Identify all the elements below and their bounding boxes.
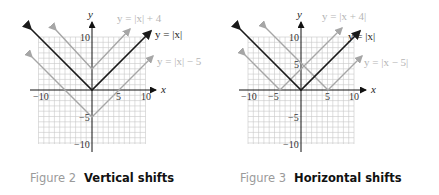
figure-caption: Figure 3Horizontal shifts bbox=[240, 171, 402, 185]
chart-horizontal-shifts: −10 −5 5 10 10 5 −5 −10 x y y = |x + 4| … bbox=[220, 0, 439, 160]
y-axis-label: y bbox=[296, 8, 302, 20]
x-tick-label: −10 bbox=[241, 91, 257, 102]
x-tick-label: −10 bbox=[33, 91, 49, 102]
y-tick-label: 10 bbox=[289, 32, 299, 43]
label-abs-x: y = |x| bbox=[155, 28, 182, 40]
label-abs-x-plus-4: y = |x + 4| bbox=[322, 10, 366, 22]
caption-title: Vertical shifts bbox=[84, 171, 174, 185]
y-tick-label: −5 bbox=[79, 112, 90, 123]
chart-vertical-shifts: −10 5 10 10 −5 −10 x y y = |x| + 4 y = |… bbox=[0, 0, 220, 160]
x-tick-label: 10 bbox=[141, 91, 151, 102]
figure-horizontal-shifts: −10 −5 5 10 10 5 −5 −10 x y y = |x + 4| … bbox=[220, 0, 439, 195]
y-tick-label: −5 bbox=[288, 112, 299, 123]
figure-caption: Figure 2Vertical shifts bbox=[30, 171, 174, 185]
caption-title: Horizontal shifts bbox=[294, 171, 401, 185]
y-tick-label: 10 bbox=[80, 32, 90, 43]
x-tick-label: −5 bbox=[268, 91, 279, 102]
x-axis-label: x bbox=[370, 83, 376, 95]
label-abs-x-minus-5: y = |x| − 5 bbox=[157, 55, 202, 67]
label-abs-x-plus-4: y = |x| + 4 bbox=[117, 12, 162, 24]
figure-vertical-shifts: −10 5 10 10 −5 −10 x y y = |x| + 4 y = |… bbox=[0, 0, 220, 195]
label-abs-x: y = |x| bbox=[348, 30, 375, 42]
y-tick-label: −10 bbox=[74, 139, 90, 150]
curve-abs-x bbox=[240, 29, 360, 90]
x-axis-label: x bbox=[160, 83, 166, 95]
y-tick-label: −10 bbox=[283, 139, 299, 150]
x-tick-label: 10 bbox=[349, 91, 359, 102]
y-tick-label: 5 bbox=[294, 59, 299, 70]
x-tick-label: 5 bbox=[325, 91, 330, 102]
caption-number: Figure 2 bbox=[30, 171, 76, 185]
y-axis-label: y bbox=[87, 8, 93, 20]
caption-number: Figure 3 bbox=[240, 171, 286, 185]
x-tick-label: 5 bbox=[116, 91, 121, 102]
label-abs-x-minus-5: y = |x − 5| bbox=[364, 56, 408, 68]
